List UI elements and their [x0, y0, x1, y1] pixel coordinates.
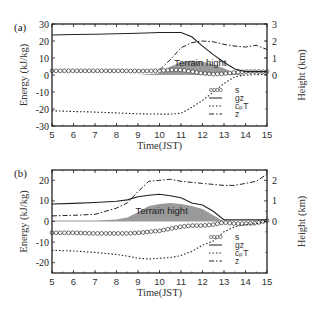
s-marker	[224, 221, 228, 225]
y-tick-label: -30	[36, 121, 49, 132]
s-marker	[162, 228, 166, 232]
s-marker	[129, 231, 133, 235]
s-marker	[137, 69, 141, 73]
legend-item-label: z	[235, 256, 239, 266]
y-tick-label: 0	[44, 70, 49, 81]
s-marker	[83, 69, 87, 73]
y-tick-label: 20	[39, 175, 49, 186]
y-right-tick-label: 2	[272, 175, 277, 186]
x-tick-label: 6	[71, 276, 76, 287]
s-marker	[203, 72, 207, 76]
x-tick-label: 13	[219, 129, 230, 140]
s-marker	[54, 69, 58, 73]
s-marker	[170, 68, 174, 72]
s-marker	[216, 72, 220, 76]
terrain-label: Terrain hight	[174, 57, 227, 68]
s-marker	[158, 229, 162, 233]
y-tick-label: 30	[39, 19, 49, 30]
s-marker	[71, 231, 75, 235]
y-tick-label: 10	[39, 53, 49, 64]
s-marker	[178, 68, 182, 72]
s-marker	[232, 222, 236, 226]
s-marker	[174, 68, 178, 72]
x-tick-label: 9	[135, 276, 140, 287]
s-marker	[96, 69, 100, 73]
s-marker	[120, 232, 124, 236]
y-tick-label: -10	[36, 87, 49, 98]
s-marker	[129, 69, 133, 73]
s-marker	[141, 231, 145, 235]
legend-item-label: z	[235, 109, 239, 119]
s-marker	[63, 231, 67, 235]
s-marker	[83, 231, 87, 235]
s-marker	[54, 231, 58, 235]
s-marker	[207, 223, 211, 227]
x-tick-label: 5	[49, 129, 54, 140]
s-marker	[178, 225, 182, 229]
y-tick-label: 20	[39, 36, 49, 47]
s-marker	[67, 231, 71, 235]
x-tick-label: 10	[154, 276, 165, 287]
s-marker	[91, 69, 95, 73]
s-marker	[236, 70, 240, 74]
s-marker	[187, 224, 191, 228]
x-axis-title: Time(JST)	[137, 140, 183, 152]
s-marker	[125, 232, 129, 236]
s-marker	[108, 69, 112, 73]
s-marker	[116, 232, 120, 236]
s-marker	[104, 232, 108, 236]
s-marker	[174, 226, 178, 230]
s-marker	[232, 71, 236, 75]
s-marker	[249, 222, 253, 226]
s-marker	[71, 69, 75, 73]
s-marker	[133, 231, 137, 235]
s-marker	[187, 69, 191, 73]
s-marker	[182, 69, 186, 73]
panel-label: (b)	[14, 167, 27, 180]
s-marker	[112, 232, 116, 236]
s-marker	[125, 69, 129, 73]
s-marker	[137, 231, 141, 235]
s-marker	[220, 221, 224, 225]
x-tick-label: 10	[154, 129, 165, 140]
x-tick-label: 8	[114, 276, 119, 287]
s-marker	[100, 232, 104, 236]
x-tick-label: 8	[114, 129, 119, 140]
s-marker	[154, 69, 158, 73]
x-tick-label: 14	[240, 276, 251, 287]
s-marker	[228, 221, 232, 225]
s-marker	[108, 232, 112, 236]
y-right-axis-title: Height (km)	[296, 49, 308, 101]
s-marker	[120, 69, 124, 73]
s-marker	[236, 222, 240, 226]
x-tick-label: 7	[92, 129, 97, 140]
panel-b: Terrain hight56789101112131415Time(JST)2…	[14, 167, 308, 299]
s-marker	[100, 69, 104, 73]
y-right-tick-label: 3	[272, 19, 277, 30]
s-marker	[149, 230, 153, 234]
s-marker	[182, 224, 186, 228]
figure: Terrain hight56789101112131415Time(JST)3…	[0, 0, 315, 313]
s-marker	[79, 69, 83, 73]
s-marker	[145, 230, 149, 234]
panel-a: Terrain hight56789101112131415Time(JST)3…	[14, 19, 308, 153]
x-tick-label: 12	[197, 276, 208, 287]
x-tick-label: 11	[176, 276, 186, 287]
x-tick-label: 15	[262, 129, 273, 140]
y-right-tick-label: 1	[272, 195, 277, 206]
s-marker	[216, 222, 220, 226]
s-marker	[162, 69, 166, 73]
terrain-label: Terrain hight	[136, 205, 189, 216]
y-tick-label: -20	[36, 257, 49, 268]
s-marker	[67, 69, 71, 73]
s-marker	[79, 231, 83, 235]
s-marker	[170, 227, 174, 231]
x-tick-label: 13	[219, 276, 230, 287]
s-marker	[104, 69, 108, 73]
s-marker	[154, 229, 158, 233]
x-tick-label: 15	[262, 276, 273, 287]
s-marker	[141, 69, 145, 73]
series-gz-line	[52, 33, 267, 72]
y-right-axis-title: Height (km)	[296, 195, 308, 247]
x-tick-label: 9	[135, 129, 140, 140]
